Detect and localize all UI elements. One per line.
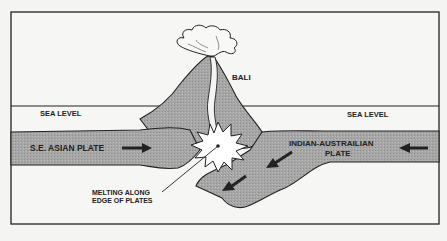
volcano-label: BALI <box>232 73 251 82</box>
se-asian-plate-label: S.E. ASIAN PLATE <box>30 143 104 153</box>
melting-label-line2: EDGE OF PLATES <box>92 197 153 204</box>
indian-australian-plate-label-line1: INDIAN-AUSTRAILIAN <box>289 139 374 148</box>
melting-label-line1: MELTING ALONG <box>92 189 150 196</box>
indian-australian-plate-label-line2: PLATE <box>325 149 351 158</box>
plate-tectonics-diagram: BALI SEA LEVEL SEA LEVEL S.E. ASIAN PLAT… <box>0 0 447 241</box>
sea-level-label-right: SEA LEVEL <box>347 110 389 119</box>
sea-level-label-left: SEA LEVEL <box>40 109 82 118</box>
